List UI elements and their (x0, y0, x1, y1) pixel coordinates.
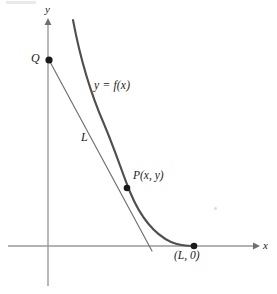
curve-f-of-x (73, 20, 194, 246)
point-p-label: P(x, y) (133, 170, 164, 182)
function-label: y = f(x) (94, 80, 130, 92)
line-l-label: L (81, 131, 88, 143)
x-axis-arrowhead (253, 243, 260, 250)
y-axis-arrowhead (45, 18, 52, 25)
diagram-canvas (0, 0, 277, 294)
y-axis-label: y (45, 4, 50, 15)
math-diagram-figure: y x Q y = f(x) L P(x, y) (L, 0) (0, 0, 277, 294)
x-axis (8, 243, 260, 250)
x-axis-label: x (263, 240, 268, 251)
point-p-marker (124, 185, 131, 192)
point-q-marker (45, 56, 52, 63)
x-intercept-label: (L, 0) (174, 250, 200, 262)
point-q-label: Q (31, 52, 40, 64)
